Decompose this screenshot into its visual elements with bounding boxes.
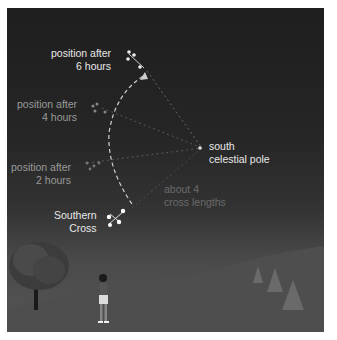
- label-line: 6 hours: [51, 60, 111, 73]
- label-line: 2 hours: [11, 174, 71, 187]
- label-line: position after: [51, 47, 111, 60]
- pole-dot-icon: [198, 146, 202, 150]
- label-line: Southern: [54, 209, 97, 222]
- label-south-celestial-pole: south celestial pole: [209, 140, 270, 166]
- label-after-2-hours: position after 2 hours: [11, 161, 71, 187]
- label-after-6-hours: position after 6 hours: [51, 47, 111, 73]
- cross-4h-icon: [91, 103, 106, 114]
- rotation-arc: [109, 75, 145, 204]
- label-about-4-cross-lengths: about 4 cross lengths: [164, 183, 226, 209]
- line-4h-to-pole: [102, 108, 202, 148]
- label-line: position after: [17, 98, 77, 111]
- label-line: Cross: [54, 222, 97, 235]
- label-line: position after: [11, 161, 71, 174]
- night-sky-scene: position after 6 hours position after 4 …: [7, 8, 324, 332]
- southern-cross-icon: [107, 209, 125, 227]
- label-southern-cross: Southern Cross: [54, 209, 97, 235]
- line-2h-to-pole: [87, 148, 202, 163]
- label-line: cross lengths: [164, 196, 226, 209]
- label-after-4-hours: position after 4 hours: [17, 98, 77, 124]
- label-line: about 4: [164, 183, 226, 196]
- arrowhead-icon: [140, 72, 148, 80]
- label-line: celestial pole: [209, 153, 270, 166]
- cross-2h-icon: [86, 162, 101, 171]
- label-line: south: [209, 140, 270, 153]
- label-line: 4 hours: [17, 111, 77, 124]
- line-6h-to-pole: [147, 71, 202, 148]
- cross-6h-icon: [126, 50, 144, 69]
